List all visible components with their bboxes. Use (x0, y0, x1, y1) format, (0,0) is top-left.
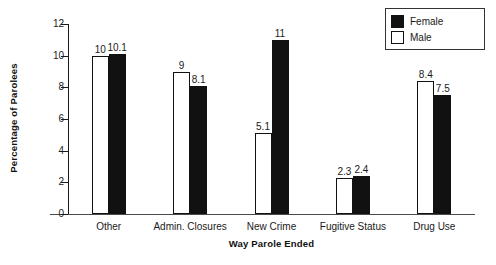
legend-label-male: Male (410, 31, 432, 44)
bar-male: 8.4 (417, 81, 434, 214)
bar-value-label: 11 (275, 28, 285, 40)
x-category-label: Drug Use (413, 220, 455, 233)
y-tick-label: 4 (58, 144, 64, 157)
y-tick-label: 12 (53, 17, 64, 30)
x-category-label: Admin. Closures (153, 220, 226, 233)
bar-value-label: 10.1 (107, 42, 126, 54)
bar-group: 8.47.5Drug Use (417, 24, 451, 214)
bar-male: 10 (92, 56, 109, 214)
y-axis-title-text: Percentage of Parolees (8, 63, 19, 172)
x-category-label: New Crime (247, 220, 296, 233)
bar-value-label: 9 (179, 60, 185, 72)
x-axis-line (50, 214, 475, 215)
y-axis-line (68, 24, 69, 214)
bar-male: 5.1 (255, 133, 272, 214)
y-axis-title: Percentage of Parolees (6, 22, 20, 214)
bar-female: 8.1 (190, 86, 207, 214)
bar-value-label: 8.4 (419, 69, 433, 81)
bar-value-label: 2.3 (337, 166, 351, 178)
y-tick-label: 10 (53, 49, 64, 62)
legend-label-female: Female (410, 15, 443, 28)
legend-swatch-female (391, 15, 404, 28)
bar-group: 1010.1Other (92, 24, 126, 214)
bar-female: 10.1 (109, 54, 126, 214)
bar-female: 7.5 (434, 95, 451, 214)
bar-male: 9 (173, 72, 190, 215)
bar-group: 2.32.4Fugitive Status (336, 24, 370, 214)
bar-value-label: 8.1 (192, 74, 206, 86)
x-category-label: Other (96, 220, 121, 233)
bar-group: 5.111New Crime (255, 24, 289, 214)
bar-value-label: 5.1 (256, 121, 270, 133)
bar-value-label: 10 (95, 44, 106, 56)
y-tick-label: 0 (58, 207, 64, 220)
y-tick-label: 8 (58, 80, 64, 93)
x-category-label: Fugitive Status (320, 220, 386, 233)
bar-female: 2.4 (353, 176, 370, 214)
bar-male: 2.3 (336, 178, 353, 214)
x-axis-title: Way Parole Ended (68, 238, 475, 249)
bar-group: 98.1Admin. Closures (173, 24, 207, 214)
plot-area: 024681012 1010.1Other98.1Admin. Closures… (68, 24, 475, 214)
legend: Female Male (385, 8, 485, 50)
bar-chart-figure: Percentage of Parolees 024681012 1010.1O… (0, 0, 496, 265)
legend-swatch-male (391, 31, 404, 44)
y-tick-label: 2 (58, 175, 64, 188)
bar-value-label: 7.5 (436, 83, 450, 95)
bar-female: 11 (272, 40, 289, 214)
legend-item-male: Male (391, 29, 479, 45)
y-tick-label: 6 (58, 112, 64, 125)
legend-item-female: Female (391, 13, 479, 29)
bar-value-label: 2.4 (354, 164, 368, 176)
